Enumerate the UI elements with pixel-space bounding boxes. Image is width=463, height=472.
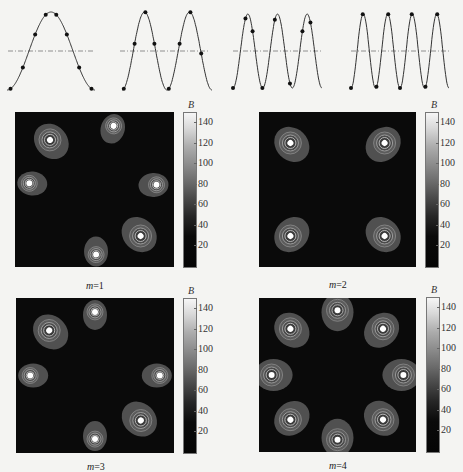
colorbar-tick-label: 40 [440, 220, 450, 230]
colorbar-tick-mark [194, 163, 197, 164]
colorbar-tick-label: 140 [198, 303, 213, 313]
colorbar-tick-label: 100 [198, 158, 213, 168]
colorbar-tick-mark [436, 122, 439, 123]
colorbar-tick-mark [436, 163, 439, 164]
colorbar-tick-label: 20 [198, 426, 208, 436]
colorbar-tick-mark [436, 225, 439, 226]
colorbar-title-m3: B [188, 285, 194, 296]
field-spot [358, 120, 407, 169]
field-spot [267, 394, 317, 443]
colorbar-tick-label: 60 [440, 199, 450, 209]
colorbar-tick-label: 120 [198, 138, 213, 148]
colorbar-tick-label: 100 [441, 343, 456, 353]
heatmap-m3 [16, 298, 174, 453]
field-spot [357, 305, 406, 354]
colorbar-tick-label: 20 [441, 425, 451, 435]
field-spot [357, 394, 407, 443]
label-value: =4 [336, 460, 347, 471]
colorbar-tick-label: 60 [441, 384, 451, 394]
waveform-m2-plot [112, 0, 232, 100]
colorbar-tick-mark [436, 204, 439, 205]
field-spot [26, 307, 76, 356]
colorbar-tick-label: 40 [441, 405, 451, 415]
colorbar-tick-label: 60 [198, 199, 208, 209]
colorbar-tick-mark [436, 245, 439, 246]
colorbar-tick-mark [194, 122, 197, 123]
colorbar-tick-label: 80 [198, 365, 208, 375]
field-spot [267, 120, 316, 169]
colorbar-tick-mark [437, 369, 440, 370]
colorbar-tick-label: 120 [440, 138, 455, 148]
colorbar-tick-mark [437, 410, 440, 411]
colorbar-tick-mark [194, 431, 197, 432]
colorbar-tick-label: 100 [440, 158, 455, 168]
colorbar-tick-mark [437, 307, 440, 308]
colorbar-tick-label: 140 [440, 117, 455, 127]
colorbar-tick-mark [194, 143, 197, 144]
colorbar-tick-label: 60 [198, 385, 208, 395]
field-spot [358, 210, 407, 259]
field-spot [114, 210, 163, 259]
colorbar-tick-label: 20 [198, 240, 208, 250]
colorbar-tick-label: 40 [198, 406, 208, 416]
waveform-m1 [0, 0, 115, 100]
colorbar-tick-label: 80 [440, 179, 450, 189]
field-spot [322, 298, 354, 331]
waveform-m4 [347, 0, 463, 100]
colorbar-tick-label: 140 [441, 302, 456, 312]
colorbar-tick-label: 20 [440, 240, 450, 250]
colorbar-tick-mark [194, 370, 197, 371]
colorbar-tick-mark [194, 329, 197, 330]
colorbar-title-m1: B [188, 99, 194, 110]
field-spot [18, 364, 48, 388]
field-spot [267, 210, 316, 259]
field-spot [27, 117, 76, 167]
field-spot [97, 112, 129, 147]
colorbar-tick-mark [194, 204, 197, 205]
colorbar-title-m2: B [431, 99, 437, 110]
field-spot [16, 170, 48, 197]
colorbar-tick-mark [194, 225, 197, 226]
waveform-m3-plot [230, 0, 350, 100]
field-spot [267, 305, 317, 354]
label-value: =1 [93, 280, 104, 291]
colorbar-tick-mark [437, 430, 440, 431]
field-spot [322, 419, 354, 452]
colorbar-tick-label: 100 [198, 344, 213, 354]
colorbar-tick-mark [194, 411, 197, 412]
colorbar-tick-mark [436, 143, 439, 144]
colorbar-title-m4: B [431, 284, 437, 295]
colorbar-tick-label: 80 [441, 364, 451, 374]
field-spot [84, 236, 109, 266]
field-spot [115, 394, 165, 443]
colorbar-tick-mark [194, 184, 197, 185]
colorbar-tick-label: 120 [441, 323, 456, 333]
field-spot [138, 172, 170, 198]
colorbar-tick-mark [437, 389, 440, 390]
colorbar-tick-label: 120 [198, 324, 213, 334]
colorbar-tick-mark [437, 348, 440, 349]
field-spot [83, 421, 107, 451]
label-value: =3 [94, 461, 105, 472]
label-value: =2 [336, 279, 347, 290]
panel-label-m2: m=2 [329, 279, 347, 290]
waveform-m3 [230, 0, 350, 100]
heatmap-m2 [259, 112, 416, 267]
colorbar-tick-mark [194, 308, 197, 309]
colorbar-tick-label: 80 [198, 179, 208, 189]
panel-label-m3: m=3 [87, 461, 105, 472]
colorbar-tick-mark [194, 245, 197, 246]
colorbar-tick-label: 40 [198, 220, 208, 230]
field-spot [259, 359, 293, 391]
field-spot [382, 359, 416, 391]
waveform-m4-plot [347, 0, 463, 100]
colorbar-tick-mark [194, 390, 197, 391]
heatmap-m4 [259, 298, 416, 452]
waveform-m2 [112, 0, 232, 100]
field-spot [142, 364, 172, 388]
waveform-m1-plot [0, 0, 115, 100]
panel-label-m1: m=1 [86, 280, 104, 291]
field-spot [83, 300, 107, 330]
colorbar-tick-mark [194, 349, 197, 350]
colorbar-tick-mark [436, 184, 439, 185]
